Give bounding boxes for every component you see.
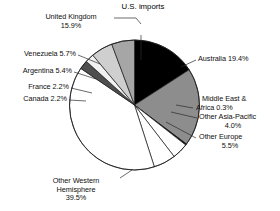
- slice-label-france: France 2.2%: [0, 83, 69, 92]
- pie-chart-figure: U.S. imports United Kingdom 15.9% Venezu…: [0, 0, 280, 211]
- slice-label-canada: Canada 2.2%: [0, 95, 67, 104]
- slice-value-other-europe: 5.5%: [199, 142, 261, 151]
- slice-value-united-kingdom: 15.9%: [28, 22, 114, 31]
- slice-label-argentina: Argentina 5.4%: [0, 67, 72, 76]
- slice-label-other-europe: Other Europe: [199, 133, 277, 142]
- leader-line-united-kingdom-elbow: [114, 18, 141, 24]
- slice-value-middle-east-africa: Africa 0.3%: [196, 104, 280, 113]
- slice-value-other-western-hemisphere: 39.5%: [32, 194, 120, 203]
- slice-value-other-asia-pacific: 4.0%: [199, 122, 267, 131]
- chart-title: U.S. imports: [98, 2, 188, 11]
- slice-label-australia: Australia 19.4%: [198, 55, 278, 64]
- leader-line-other-western-hemisphere: [120, 170, 132, 178]
- slice-label-venezuela: Venezuela 5.7%: [0, 50, 76, 59]
